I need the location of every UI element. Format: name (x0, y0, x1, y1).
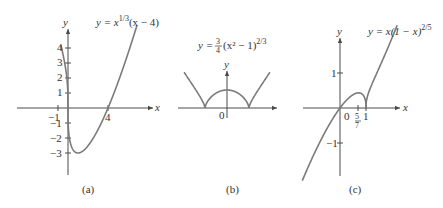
origin-label: 0 (219, 109, 225, 121)
caption-b: (b) (226, 183, 239, 196)
y-tick-neg1: −1 (50, 117, 62, 129)
y-tick-neg1: −1 (326, 137, 338, 149)
x-axis-label: x (154, 101, 160, 113)
curve-a (61, 25, 137, 153)
svg-text:7: 7 (355, 121, 359, 130)
y-tick-neg3: −3 (50, 147, 62, 159)
panel-a: y x −1 4 4 3 2 1 −1 −2 −3 y = x1/3(x − 4… (17, 14, 160, 196)
equation-a: y = x1/3(x − 4) (95, 14, 159, 29)
y-axis-label: y (336, 25, 342, 37)
svg-text:5: 5 (355, 112, 359, 121)
y-tick-1: 1 (331, 67, 337, 79)
caption-a: (a) (82, 183, 95, 196)
y-tick-neg2: −2 (50, 132, 62, 144)
caption-c: (c) (349, 183, 362, 196)
equation-c: y = x(1 − x)2/5 (367, 23, 432, 38)
panel-b: y 0 y = 3 4 (x² − 1)2/3 (b) (178, 37, 277, 196)
x-tick-0: 0 (344, 110, 350, 122)
curve-c (302, 25, 397, 180)
y-axis-label: y (223, 58, 229, 70)
y-tick-3: 3 (57, 56, 63, 68)
y-tick-2: 2 (57, 71, 63, 83)
equation-b: y = 3 4 (x² − 1)2/3 (197, 37, 267, 55)
figure-canvas: y x −1 4 4 3 2 1 −1 −2 −3 y = x1/3(x − 4… (0, 0, 443, 208)
y-tick-1: 1 (57, 86, 63, 98)
svg-text:y =: y = (197, 39, 213, 51)
svg-text:3: 3 (216, 37, 220, 46)
graphs-svg: y x −1 4 4 3 2 1 −1 −2 −3 y = x1/3(x − 4… (0, 0, 443, 208)
x-tick-1: 1 (363, 110, 369, 122)
x-tick-5-7: 5 7 (355, 112, 361, 130)
svg-text:(x² − 1)2/3: (x² − 1)2/3 (223, 37, 267, 52)
y-axis-label: y (62, 16, 68, 28)
x-tick-4: 4 (105, 111, 111, 123)
svg-text:4: 4 (216, 46, 220, 55)
y-tick-4: 4 (57, 41, 63, 53)
x-axis-label: x (402, 101, 408, 113)
panel-c: y x 0 5 7 1 1 −1 y = x(1 − x)2/5 (c) (302, 23, 431, 196)
